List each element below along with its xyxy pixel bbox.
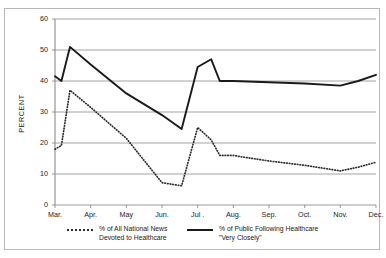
y-tick-label: 0	[30, 200, 48, 209]
chart-figure: PERCENT 0102030405060 Mar.Apr.MayJun.Jul…	[4, 8, 380, 250]
chart-legend: % of All National News Devoted to Health…	[5, 217, 381, 251]
y-tick-label: 10	[30, 169, 48, 178]
y-tick-label: 50	[30, 45, 48, 54]
y-tick-label: 30	[30, 107, 48, 116]
legend-news-line1: % of All National News	[99, 224, 167, 233]
series-line	[55, 90, 376, 185]
series-line	[55, 47, 376, 129]
cropped-caption-bleed: . .	[0, 0, 386, 6]
legend-entry-public: % of Public Following Healthcare "Very C…	[219, 224, 318, 242]
legend-public-line1: % of Public Following Healthcare	[219, 224, 318, 233]
y-tick-label: 60	[30, 14, 48, 23]
legend-swatch-news	[67, 229, 93, 231]
legend-swatch-public	[187, 229, 213, 231]
legend-entry-news: % of All National News Devoted to Health…	[99, 224, 167, 242]
legend-news-line2: Devoted to Healthcare	[99, 233, 167, 242]
y-tick-label: 20	[30, 138, 48, 147]
y-tick-label: 40	[30, 76, 48, 85]
legend-public-line2: "Very Closely"	[219, 233, 318, 242]
plot-area: PERCENT 0102030405060 Mar.Apr.MayJun.Jul…	[5, 9, 381, 251]
